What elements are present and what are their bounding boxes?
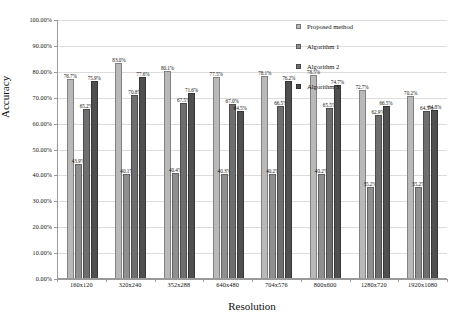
x-tick-label: 160x120 xyxy=(57,281,106,295)
bar: 78.5% xyxy=(310,75,317,278)
y-tick-label: 50.00% xyxy=(33,147,52,153)
y-tick-label: 80.00% xyxy=(33,69,52,75)
bar-group: 78.1%40.2%66.5%76.2% xyxy=(253,20,302,278)
y-tick-mark xyxy=(54,227,57,228)
y-tick-label: 60.00% xyxy=(33,121,52,127)
x-tick-label: 320x240 xyxy=(106,281,155,295)
x-tick-label: 1920x1080 xyxy=(398,281,447,295)
bar: 65.2% xyxy=(83,109,90,278)
x-axis-title: Resolution xyxy=(57,300,447,312)
legend-item[interactable]: Algorithm 1 xyxy=(296,38,446,54)
y-tick-mark xyxy=(54,98,57,99)
bar-value-label: 67.0% xyxy=(226,98,239,104)
legend-item[interactable]: Proposed method xyxy=(296,18,446,34)
y-tick-label: 40.00% xyxy=(33,172,52,178)
bar: 64.5% xyxy=(237,111,244,278)
bar: 74.7% xyxy=(334,85,341,278)
legend-label: Proposed method xyxy=(307,23,353,30)
bar: 80.1% xyxy=(164,71,171,278)
bar: 75.9% xyxy=(91,81,98,278)
y-tick-mark xyxy=(54,175,57,176)
bar-group: 83.0%40.1%70.8%77.6% xyxy=(107,20,156,278)
y-tick-mark xyxy=(54,20,57,21)
bar: 70.8% xyxy=(131,95,138,278)
y-tick-label: 100.00% xyxy=(29,17,52,23)
bar-value-label: 64.8% xyxy=(428,104,441,110)
y-tick-label: 10.00% xyxy=(33,250,52,256)
bar: 40.2% xyxy=(269,174,276,278)
legend-swatch-icon xyxy=(296,84,301,89)
bar-value-label: 64.5% xyxy=(234,105,247,111)
bar-value-label: 77.6% xyxy=(136,71,149,77)
y-tick-mark xyxy=(54,72,57,73)
y-tick-mark xyxy=(54,124,57,125)
legend-label: Algorithm 2 xyxy=(307,63,339,70)
bar-value-label: 71.6% xyxy=(185,87,198,93)
bar: 43.9% xyxy=(75,164,82,278)
legend-swatch-icon xyxy=(296,24,301,29)
bar: 67.0% xyxy=(229,104,236,278)
y-tick-label: 0.00% xyxy=(36,276,52,282)
legend-item[interactable]: Algorithm 2 xyxy=(296,58,446,74)
bar: 77.5% xyxy=(213,77,220,278)
x-axis-labels: 160x120320x240352x288640x480704x576800x6… xyxy=(57,281,447,295)
legend-item[interactable]: Algorithm 3 xyxy=(296,78,446,94)
bar: 64.5% xyxy=(423,111,430,278)
bar: 66.5% xyxy=(277,106,284,278)
bar: 67.5% xyxy=(180,103,187,278)
bar-group: 80.1%40.4%67.5%71.6% xyxy=(155,20,204,278)
bar: 40.3% xyxy=(221,174,228,278)
bar: 76.7% xyxy=(67,79,74,278)
legend-label: Algorithm 1 xyxy=(307,43,339,50)
legend-swatch-icon xyxy=(296,64,301,69)
bar: 71.6% xyxy=(188,93,195,278)
y-tick-label: 20.00% xyxy=(33,224,52,230)
legend-swatch-icon xyxy=(296,44,301,49)
bar: 35.2% xyxy=(415,187,422,278)
bar-value-label: 78.1% xyxy=(258,70,271,76)
bar: 64.8% xyxy=(431,110,438,278)
x-tick-label: 640x480 xyxy=(203,281,252,295)
bar: 40.1% xyxy=(123,174,130,278)
x-tick-mark xyxy=(447,279,448,282)
y-tick-mark xyxy=(54,150,57,151)
bar: 65.5% xyxy=(326,108,333,278)
y-tick-label: 90.00% xyxy=(33,43,52,49)
x-tick-label: 800x600 xyxy=(301,281,350,295)
y-tick-mark xyxy=(54,201,57,202)
bar: 77.6% xyxy=(139,77,146,278)
bar: 76.2% xyxy=(285,81,292,278)
y-axis: 0.00%10.00%20.00%30.00%40.00%50.00%60.00… xyxy=(0,0,57,279)
bar-value-label: 76.2% xyxy=(282,75,295,81)
x-tick-label: 704x576 xyxy=(252,281,301,295)
y-tick-label: 70.00% xyxy=(33,95,52,101)
y-tick-mark xyxy=(54,279,57,280)
bar-value-label: 76.7% xyxy=(64,73,77,79)
bar-chart: Accuracy 0.00%10.00%20.00%30.00%40.00%50… xyxy=(0,0,454,329)
bar: 66.5% xyxy=(383,106,390,278)
y-tick-mark xyxy=(54,46,57,47)
x-tick-label: 1280x720 xyxy=(350,281,399,295)
bar-value-label: 66.5% xyxy=(379,100,392,106)
legend-label: Algorithm 3 xyxy=(307,83,339,90)
y-tick-label: 30.00% xyxy=(33,198,52,204)
bar-value-label: 75.9% xyxy=(88,75,101,81)
bar: 78.1% xyxy=(261,76,268,278)
chart-legend: Proposed methodAlgorithm 1Algorithm 2Alg… xyxy=(296,18,446,98)
bar-group: 77.5%40.3%67.0%64.5% xyxy=(204,20,253,278)
bar-value-label: 83.0% xyxy=(112,57,125,63)
bar-value-label: 77.5% xyxy=(210,71,223,77)
y-tick-mark xyxy=(54,253,57,254)
bar-value-label: 80.1% xyxy=(161,65,174,71)
bar: 40.4% xyxy=(172,173,179,278)
bar-group: 76.7%43.9%65.2%75.9% xyxy=(58,20,107,278)
bar: 40.2% xyxy=(318,174,325,278)
bar: 62.9% xyxy=(375,115,382,278)
bar: 35.2% xyxy=(367,187,374,278)
bar: 70.2% xyxy=(407,96,414,278)
x-tick-label: 352x288 xyxy=(155,281,204,295)
